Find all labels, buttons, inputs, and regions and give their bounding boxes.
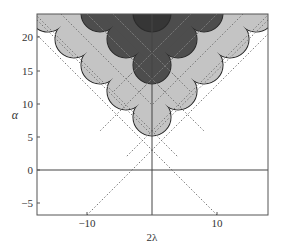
x-tick-label: 10: [212, 217, 224, 229]
y-tick-label: 10: [22, 98, 34, 110]
chart-figure: 20 15 10 5 0 −5 −10 10 2λ α: [0, 0, 281, 248]
y-tick-label: 15: [22, 65, 34, 77]
plot-area: [0, 0, 281, 215]
y-tick-label: 20: [22, 31, 34, 43]
y-tick-label: −5: [21, 197, 33, 209]
y-tick-label: 0: [28, 164, 34, 176]
y-axis-label: α: [12, 108, 19, 122]
x-tick-label: −10: [78, 217, 96, 229]
y-tick-label: 5: [28, 131, 34, 143]
x-axis-label: 2λ: [147, 231, 159, 243]
